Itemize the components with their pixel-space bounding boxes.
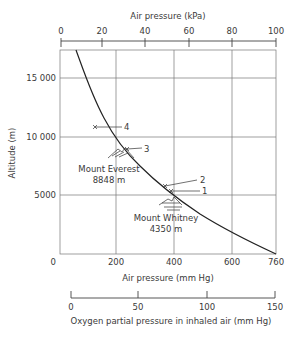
x-axis-ticks: 200 400 600 760: [108, 257, 284, 267]
y-tick: 0: [51, 257, 56, 267]
top-axis-title: Air pressure (kPa): [130, 11, 205, 21]
y-axis-ticks: 15 000 10 000 5000 0: [26, 73, 56, 267]
o2-tick: 0: [68, 302, 73, 312]
top-tick: 20: [97, 26, 108, 36]
y-tick: 5000: [34, 190, 56, 200]
top-axis-ticks: 0 20 40 60 80 100: [58, 26, 284, 36]
point-label-1: 1: [202, 186, 207, 196]
x-tick: 600: [224, 257, 240, 267]
whitney-label: Mount Whitney: [134, 213, 198, 223]
oxygen-axis-ticks: 0 50 100 150: [68, 302, 283, 312]
x-axis-title: Air pressure (mm Hg): [122, 273, 213, 283]
whitney-altitude: 4350 m: [150, 224, 183, 234]
top-tick: 0: [58, 26, 63, 36]
x-tick: 200: [108, 257, 124, 267]
oxygen-axis: [71, 291, 275, 298]
top-axis: [61, 38, 276, 47]
point-label-4: 4: [124, 122, 129, 132]
x-tick: 760: [268, 257, 284, 267]
altitude-pressure-chart: Air pressure (kPa) 0 20 40 60 80 100 Alt…: [0, 0, 300, 337]
point-label-3: 3: [144, 144, 149, 154]
top-tick: 80: [227, 26, 238, 36]
everest-label: Mount Everest: [78, 164, 140, 174]
oxygen-axis-title: Oxygen partial pressure in inhaled air (…: [71, 316, 272, 326]
y-tick: 15 000: [26, 73, 56, 83]
y-axis-title: Altitude (m): [7, 128, 17, 179]
o2-tick: 100: [199, 302, 215, 312]
everest-altitude: 8848 m: [93, 175, 126, 185]
y-tick: 10 000: [26, 132, 56, 142]
x-tick: 400: [166, 257, 182, 267]
point-label-2: 2: [200, 175, 205, 185]
o2-tick: 150: [267, 302, 283, 312]
top-tick: 60: [184, 26, 195, 36]
top-tick: 100: [268, 26, 284, 36]
o2-tick: 50: [133, 302, 144, 312]
top-tick: 40: [140, 26, 151, 36]
